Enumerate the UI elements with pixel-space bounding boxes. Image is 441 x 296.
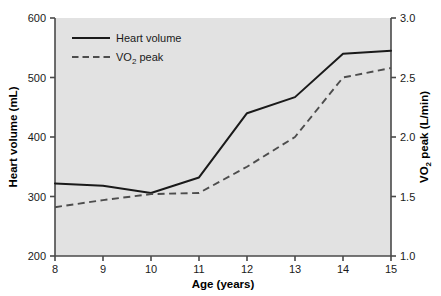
line-chart: 200300400500600 1.01.52.02.53.0 89101112… [0, 0, 441, 296]
x-axis-tick-label: 13 [289, 263, 301, 275]
y-axis-right-tick-label: 2.5 [400, 72, 415, 84]
chart-container: 200300400500600 1.01.52.02.53.0 89101112… [0, 0, 441, 296]
x-axis-tick-label: 10 [145, 263, 157, 275]
y-axis-right-tick-label: 2.0 [400, 131, 415, 143]
y-axis-right-tick-label: 3.0 [400, 12, 415, 24]
x-axis-tick-label: 14 [337, 263, 349, 275]
y-axis-left-title: Heart volume (mL) [7, 86, 19, 187]
x-axis-tick-label: 12 [241, 263, 253, 275]
legend-label-vo2-peak-tail: peak [136, 51, 163, 63]
y-axis-left-tick-label: 400 [28, 131, 46, 143]
x-axis-tick-label: 8 [52, 263, 58, 275]
y-axis-right-title-main: VO [418, 166, 430, 183]
y-axis-right-tick-label: 1.0 [400, 250, 415, 262]
x-axis-tick-label: 9 [100, 263, 106, 275]
x-axis-tick-label: 11 [193, 263, 204, 275]
x-axis-tick-label: 15 [385, 263, 397, 275]
y-axis-right-tick-label: 1.5 [400, 191, 415, 203]
y-axis-left-tick-label: 500 [28, 72, 46, 84]
y-axis-left-tick-label: 600 [28, 12, 46, 24]
y-axis-right-title-tail: peak (L/min) [418, 91, 430, 162]
y-axis-left-tick-label: 200 [28, 250, 46, 262]
y-axis-left-tick-label: 300 [28, 191, 46, 203]
x-axis-title: Age (years) [192, 278, 255, 290]
plot-area-background [55, 18, 391, 256]
legend-label-vo2-peak-main: VO [116, 51, 132, 63]
legend-label-heart-volume: Heart volume [116, 32, 181, 44]
